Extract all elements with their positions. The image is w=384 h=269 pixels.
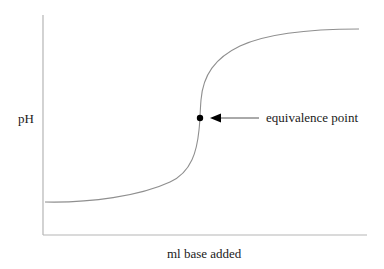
equivalence-point-label: equivalence point (266, 111, 358, 124)
x-axis-label: ml base added (167, 247, 241, 260)
titration-chart (0, 0, 384, 269)
y-axis-label: pH (18, 112, 34, 125)
arrow-head-icon (210, 114, 221, 123)
equivalence-point-marker (197, 115, 203, 121)
